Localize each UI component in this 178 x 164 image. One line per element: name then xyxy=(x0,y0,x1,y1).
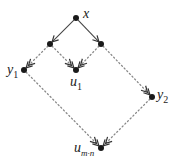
dotted-edge-line xyxy=(103,46,150,95)
edge-a-y1 xyxy=(26,46,48,68)
arrowhead-icon xyxy=(141,86,147,93)
nodes-layer xyxy=(21,15,155,151)
edge-x-a xyxy=(52,20,74,42)
edge-x-b xyxy=(78,20,99,42)
lattice-diagram: x y1 u1 y2 um·n xyxy=(0,0,178,164)
label-y1-sub: 1 xyxy=(13,69,18,80)
node-u1 xyxy=(73,67,79,73)
node-umn xyxy=(98,145,104,151)
diagram-canvas xyxy=(0,0,178,164)
label-x-text: x xyxy=(83,6,89,21)
label-u1-base: u xyxy=(70,74,77,89)
label-x: x xyxy=(83,7,89,21)
label-u1-sub: 1 xyxy=(77,81,82,92)
dotted-edge-line xyxy=(103,99,150,146)
label-u1: u1 xyxy=(70,75,82,92)
edge-a-u1 xyxy=(52,46,74,68)
label-y1: y1 xyxy=(7,63,18,80)
edge-y2-umn xyxy=(103,99,150,146)
node-b xyxy=(98,41,104,47)
node-y1 xyxy=(21,67,27,73)
label-y2-sub: 2 xyxy=(163,94,168,105)
node-y2 xyxy=(149,94,155,100)
label-umn-base: u xyxy=(74,140,81,155)
solid-edge-line xyxy=(52,20,74,42)
node-x xyxy=(73,15,79,21)
solid-edge-line xyxy=(78,20,99,42)
edges-layer xyxy=(26,20,150,146)
label-y2: y2 xyxy=(157,88,168,105)
dotted-edge-line xyxy=(26,72,99,146)
edge-b-u1 xyxy=(78,46,99,68)
edge-y1-umn xyxy=(26,72,99,146)
label-umn: um·n xyxy=(74,141,94,158)
edge-b-y2 xyxy=(103,46,150,95)
node-a xyxy=(47,41,53,47)
label-umn-sub: m·n xyxy=(81,148,94,158)
